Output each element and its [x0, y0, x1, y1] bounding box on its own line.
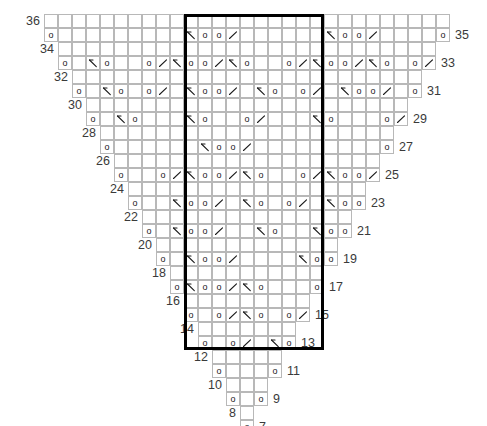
- chart-cell: [240, 28, 254, 42]
- row-label-right-9: 9: [273, 393, 280, 406]
- chart-cell: [282, 70, 296, 84]
- ssk-symbol: [241, 197, 253, 209]
- yarn-over-symbol: o: [342, 31, 347, 40]
- chart-cell: [212, 224, 226, 238]
- chart-cell: [100, 70, 114, 84]
- row-label-right-23: 23: [371, 197, 385, 210]
- chart-cell: [226, 14, 240, 28]
- yarn-over-symbol: o: [202, 199, 207, 208]
- yarn-over-symbol: o: [286, 59, 291, 68]
- chart-cell: [240, 168, 254, 182]
- chart-cell: [240, 196, 254, 210]
- chart-cell: [184, 280, 198, 294]
- chart-cell: [282, 42, 296, 56]
- yarn-over-symbol: o: [286, 339, 291, 348]
- ssk-symbol: [255, 85, 267, 97]
- chart-cell: [156, 42, 170, 56]
- yarn-over-symbol: o: [440, 31, 445, 40]
- chart-cell: [380, 98, 394, 112]
- ssk-symbol: [87, 57, 99, 69]
- row-label-left-20: 20: [138, 239, 152, 252]
- chart-cell: [240, 252, 254, 266]
- chart-cell: [268, 308, 282, 322]
- chart-cell: o: [296, 84, 310, 98]
- yarn-over-symbol: o: [314, 283, 319, 292]
- chart-cell: [100, 84, 114, 98]
- chart-cell: [282, 252, 296, 266]
- chart-cell: o: [380, 56, 394, 70]
- chart-cell: [296, 210, 310, 224]
- chart-cell: [198, 126, 212, 140]
- yarn-over-symbol: o: [202, 171, 207, 180]
- chart-cell: [184, 98, 198, 112]
- chart-cell: o: [212, 140, 226, 154]
- chart-cell: o: [198, 224, 212, 238]
- ssk-symbol: [367, 57, 379, 69]
- yarn-over-symbol: o: [160, 171, 165, 180]
- row-label-right-13: 13: [301, 337, 315, 350]
- chart-cell: o: [212, 28, 226, 42]
- chart-cell: [170, 84, 184, 98]
- chart-cell: [170, 154, 184, 168]
- chart-cell: [86, 14, 100, 28]
- chart-cell: [86, 42, 100, 56]
- chart-cell: o: [114, 84, 128, 98]
- chart-cell: [184, 294, 198, 308]
- yarn-over-symbol: o: [328, 255, 333, 264]
- chart-cell: [72, 42, 86, 56]
- yarn-over-symbol: o: [132, 199, 137, 208]
- yarn-over-symbol: o: [76, 87, 81, 96]
- chart-cell: [268, 14, 282, 28]
- chart-cell: [156, 210, 170, 224]
- chart-cell: [352, 140, 366, 154]
- yarn-over-symbol: o: [412, 87, 417, 96]
- chart-cell: [170, 28, 184, 42]
- chart-cell: [100, 112, 114, 126]
- chart-cell: o: [408, 56, 422, 70]
- yarn-over-symbol: o: [216, 31, 221, 40]
- chart-cell: o: [184, 56, 198, 70]
- chart-cell: [212, 14, 226, 28]
- chart-cell: [114, 112, 128, 126]
- knitting-chart: 36oooooo3534ooooooooooo3332oooooooooo313…: [0, 0, 487, 426]
- chart-cell: [310, 14, 324, 28]
- chart-cell: o: [268, 84, 282, 98]
- chart-cell: [226, 56, 240, 70]
- ssk-symbol: [325, 197, 337, 209]
- chart-cell: [198, 42, 212, 56]
- ssk-symbol: [311, 225, 323, 237]
- chart-cell: [212, 294, 226, 308]
- chart-cell: o: [212, 280, 226, 294]
- row-label-left-10: 10: [208, 379, 222, 392]
- k2tog-symbol: [213, 197, 225, 209]
- chart-cell: o: [338, 28, 352, 42]
- yarn-over-symbol: o: [356, 31, 361, 40]
- chart-cell: [352, 70, 366, 84]
- chart-cell: [86, 84, 100, 98]
- chart-cell: [282, 280, 296, 294]
- row-label-left-28: 28: [82, 127, 96, 140]
- chart-cell: [268, 98, 282, 112]
- chart-cell: [212, 154, 226, 168]
- chart-cell: [338, 42, 352, 56]
- chart-cell: [324, 168, 338, 182]
- chart-cell: [338, 14, 352, 28]
- chart-cell: o: [380, 112, 394, 126]
- chart-cell: [310, 224, 324, 238]
- chart-cell: [366, 140, 380, 154]
- k2tog-symbol: [367, 169, 379, 181]
- chart-cell: [268, 294, 282, 308]
- chart-cell: [128, 84, 142, 98]
- chart-cell: [170, 238, 184, 252]
- chart-cell: [184, 140, 198, 154]
- chart-cell: o: [282, 56, 296, 70]
- k2tog-symbol: [213, 57, 225, 69]
- chart-cell: [254, 336, 268, 350]
- chart-cell: [254, 210, 268, 224]
- k2tog-symbol: [381, 85, 393, 97]
- chart-cell: [352, 154, 366, 168]
- chart-cell: [352, 182, 366, 196]
- chart-cell: [114, 140, 128, 154]
- ssk-symbol: [311, 57, 323, 69]
- yarn-over-symbol: o: [356, 171, 361, 180]
